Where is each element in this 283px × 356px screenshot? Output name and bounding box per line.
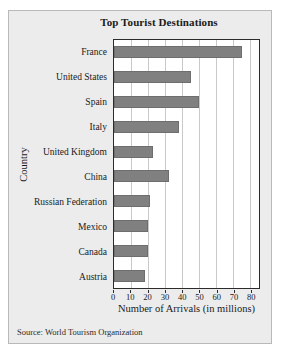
bar-row <box>114 263 259 288</box>
x-axis-title: Number of Arrivals (in millions) <box>99 303 274 314</box>
chart-figure: Top Tourist Destinations Country FranceU… <box>8 10 272 344</box>
bar-row <box>114 238 259 263</box>
y-axis-tick-label: Austria <box>15 264 111 289</box>
bar <box>114 170 169 182</box>
y-axis-tick-label: Spain <box>15 89 111 114</box>
bar <box>114 270 145 282</box>
bar <box>114 96 199 108</box>
bar-row <box>114 40 259 65</box>
bar <box>114 146 153 158</box>
bar <box>114 220 148 232</box>
bar-row <box>114 214 259 239</box>
bar <box>114 46 242 58</box>
y-axis-tick-label: Russian Federation <box>15 189 111 214</box>
bar-row <box>114 189 259 214</box>
bar-row <box>114 114 259 139</box>
bar-row <box>114 139 259 164</box>
y-axis-tick-label: China <box>15 164 111 189</box>
bar-row <box>114 65 259 90</box>
x-axis-tick-label: 40 <box>178 292 187 302</box>
y-axis-tick-label: France <box>15 39 111 64</box>
plot-area <box>113 39 260 289</box>
y-axis-tick-label: United States <box>15 64 111 89</box>
x-axis-tick-label: 30 <box>161 292 170 302</box>
x-axis-tick-label: 10 <box>126 292 135 302</box>
x-axis-ticks: 01020304050607080 <box>113 290 260 302</box>
x-axis-tick-label: 60 <box>213 292 222 302</box>
y-axis-tick-labels: FranceUnited StatesSpainItalyUnited King… <box>15 39 111 289</box>
x-axis-tick-label: 80 <box>247 292 256 302</box>
y-axis-tick-label: United Kingdom <box>15 139 111 164</box>
x-axis-tick-label: 50 <box>195 292 204 302</box>
bar <box>114 121 179 133</box>
y-axis-tick-label: Canada <box>15 239 111 264</box>
bar-row <box>114 164 259 189</box>
bar-series <box>114 40 259 288</box>
y-axis-tick-label: Italy <box>15 114 111 139</box>
bar <box>114 245 148 257</box>
source-note: Source: World Tourism Organization <box>17 327 143 337</box>
chart-title: Top Tourist Destinations <box>9 16 271 28</box>
x-axis-tick-label: 0 <box>111 292 115 302</box>
y-axis-tick-label: Mexico <box>15 214 111 239</box>
x-axis-tick-label: 70 <box>230 292 239 302</box>
x-axis-tick-label: 20 <box>143 292 152 302</box>
bar <box>114 71 191 83</box>
bar-row <box>114 90 259 115</box>
bar <box>114 195 150 207</box>
